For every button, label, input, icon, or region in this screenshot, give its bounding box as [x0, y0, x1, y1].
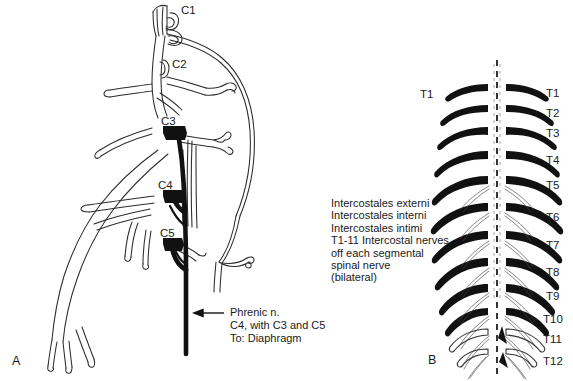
label-c4: C4	[158, 180, 173, 192]
label-rib-t7: T7	[546, 240, 559, 252]
label-rib-t12: T12	[543, 356, 563, 368]
label-rib-t8: T8	[546, 267, 559, 279]
label-rib-t1: T1	[546, 88, 559, 100]
label-rib-t9: T9	[546, 291, 559, 303]
panel-label-a: A	[12, 355, 20, 368]
label-c1: C1	[181, 5, 196, 17]
label-rib-t2: T2	[546, 108, 559, 120]
label-rib-t3: T3	[546, 128, 559, 140]
label-rib-t5: T5	[546, 180, 559, 192]
panel-b-illustration	[431, 60, 563, 379]
intercostal-muscles-note: Intercostales externi Intercostales inte…	[331, 197, 449, 284]
label-rib-t10: T10	[543, 314, 563, 326]
phrenic-nerve-callout: Phrenic n. C4, with C3 and C5 To: Diaphr…	[230, 306, 325, 346]
label-c2: C2	[172, 59, 187, 71]
label-rib-t11: T11	[543, 334, 562, 346]
label-rib-t4: T4	[546, 155, 559, 167]
cervical-plexus-outline	[48, 5, 255, 373]
label-c3: C3	[161, 116, 176, 128]
label-rib-t6: T6	[546, 212, 559, 224]
panel-label-b: B	[428, 354, 436, 367]
phrenic-callout-arrow	[194, 310, 224, 317]
label-t1-left: T1	[420, 89, 433, 101]
anatomy-figure: C1 C2 C3 C4 C5 Phrenic n. C4, with C3 an…	[0, 0, 573, 381]
label-c5: C5	[160, 228, 175, 240]
